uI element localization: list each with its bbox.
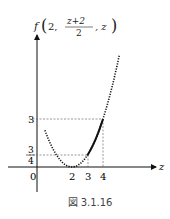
x-tick-4: 4 xyxy=(100,171,106,182)
y-tick-frac-den: 4 xyxy=(28,156,34,166)
dotted-curve xyxy=(45,55,119,167)
frac-denominator: 2 xyxy=(76,28,82,38)
guide-lines xyxy=(29,119,103,167)
figure-caption: 図 3.1.16 xyxy=(0,194,170,209)
frac-numerator: z+2 xyxy=(66,16,85,26)
x-tick-3: 3 xyxy=(85,171,91,182)
arg-three: , z xyxy=(95,21,107,32)
x-axis-label: z xyxy=(158,161,165,172)
y-axis-label: f ( 2, z+2 2 , z ) xyxy=(33,16,117,38)
paren-open: ( xyxy=(41,16,47,35)
figure: 0 2 3 4 z 3 3 4 f ( 2, z+2 2 , z ) 図 3.1… xyxy=(0,0,170,219)
origin-label: 0 xyxy=(30,171,36,182)
solid-curve-segment xyxy=(88,119,104,155)
arg-one: 2, xyxy=(48,21,58,32)
y-tick-3: 3 xyxy=(28,114,34,125)
graph: 0 2 3 4 z 3 3 4 f ( 2, z+2 2 , z ) xyxy=(0,0,170,219)
paren-close: ) xyxy=(111,16,117,35)
func-name: f xyxy=(33,20,40,33)
x-tick-2: 2 xyxy=(69,171,75,182)
y-tick-frac-num: 3 xyxy=(28,145,34,155)
